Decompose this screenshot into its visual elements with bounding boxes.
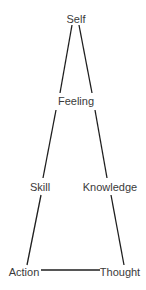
- self-feeling-skill-knowledge-diagram: Self Feeling Skill Knowledge Action Thou…: [0, 0, 146, 290]
- edge-feeling-skill: [43, 110, 56, 178]
- diagram-edges: [0, 0, 146, 290]
- edge-knowledge-thought: [111, 195, 124, 265]
- node-knowledge: Knowledge: [83, 181, 137, 193]
- edge-feeling-knowledge: [95, 110, 107, 178]
- node-feeling: Feeling: [58, 95, 94, 107]
- edge-skill-action: [27, 195, 41, 265]
- node-self: Self: [67, 13, 86, 25]
- node-thought: Thought: [100, 266, 140, 278]
- node-action: Action: [9, 266, 40, 278]
- edge-self-feeling-right: [79, 25, 92, 93]
- node-skill: Skill: [30, 181, 50, 193]
- edge-self-feeling-left: [60, 25, 72, 93]
